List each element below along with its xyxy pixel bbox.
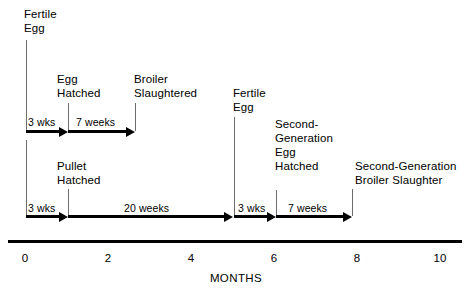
stem-fertile-egg-row1 — [26, 40, 27, 131]
stem-pullet-hatched — [68, 189, 69, 216]
stem-egg-hatched — [68, 103, 69, 131]
stem-secondgen-egg-hatched — [276, 190, 277, 216]
stem-secondgen-broiler-slaughter — [352, 189, 353, 216]
duration-label-7weeks-row2: 7 weeks — [288, 202, 327, 214]
arrow-7weeks-row2 — [276, 215, 344, 218]
arrow-3wks-row2 — [26, 215, 60, 218]
arrow-20weeks-row2 — [68, 215, 225, 218]
stem-broiler-slaughtered — [135, 103, 136, 131]
axis-tick-6: 6 — [261, 252, 287, 265]
event-label-egg-hatched: Egg Hatched — [57, 72, 101, 100]
arrow-7weeks-row1 — [68, 130, 127, 133]
axis-tick-4: 4 — [178, 252, 204, 265]
arrow-3wks-row1 — [26, 130, 60, 133]
event-label-secondgen-egg-hatched: Second- Generation Egg Hatched — [275, 117, 333, 173]
duration-label-20weeks-row2: 20 weeks — [124, 202, 169, 214]
arrow-3wks-row2-b — [234, 215, 268, 218]
axis-caption-months: MONTHS — [176, 272, 296, 285]
event-label-secondgen-broiler-slaughter: Second-Generation Broiler Slaughter — [355, 159, 456, 187]
event-label-pullet-hatched: Pullet Hatched — [57, 159, 101, 187]
event-label-fertile-egg-second: Fertile Egg — [233, 86, 266, 114]
duration-label-3wks-row2: 3 wks — [28, 202, 55, 214]
duration-label-3wks-row2-b: 3 wks — [238, 202, 265, 214]
duration-label-7weeks-row1: 7 weeks — [76, 116, 115, 128]
stem-fertile-egg-second — [234, 117, 235, 216]
axis-tick-0: 0 — [12, 252, 38, 265]
axis-line — [8, 240, 462, 243]
event-label-fertile-egg: Fertile Egg — [24, 7, 57, 35]
timeline-diagram: Fertile Egg Egg Hatched Broiler Slaughte… — [0, 0, 472, 293]
duration-label-3wks-row1: 3 wks — [28, 116, 55, 128]
axis-tick-2: 2 — [95, 252, 121, 265]
axis-tick-10: 10 — [427, 252, 453, 265]
event-label-broiler-slaughtered: Broiler Slaughtered — [134, 72, 197, 100]
axis-tick-8: 8 — [344, 252, 370, 265]
stem-fertile-egg-row2 — [26, 140, 27, 216]
